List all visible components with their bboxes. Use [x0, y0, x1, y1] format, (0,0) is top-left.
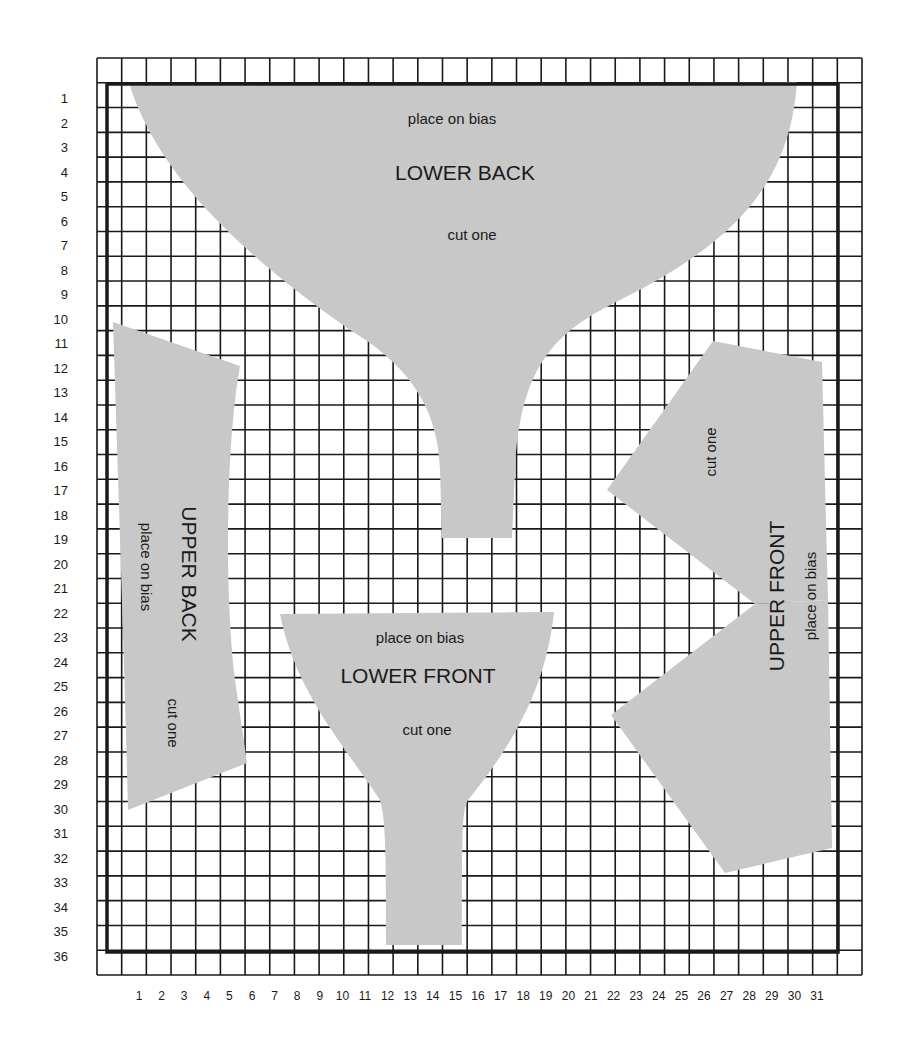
x-axis-label: 5	[226, 989, 233, 1003]
y-axis-label: 25	[54, 679, 68, 694]
x-axis-label: 13	[404, 989, 418, 1003]
x-axis-label: 4	[203, 989, 210, 1003]
x-axis-label: 29	[765, 989, 779, 1003]
y-axis-label: 31	[54, 826, 68, 841]
x-axis-labels: 1234567891011121314151617181920212223242…	[136, 989, 824, 1003]
y-axis-label: 23	[54, 630, 68, 645]
upper-back-title: UPPER BACK	[178, 506, 201, 641]
x-axis-label: 28	[743, 989, 757, 1003]
x-axis-label: 11	[359, 989, 372, 1003]
x-axis-label: 7	[271, 989, 278, 1003]
y-axis-label: 22	[54, 606, 68, 621]
x-axis-label: 17	[494, 989, 508, 1003]
upper-back-note-bias: place on bias	[138, 523, 155, 611]
y-axis-label: 32	[54, 851, 68, 866]
y-axis-label: 8	[61, 263, 68, 278]
x-axis-label: 19	[539, 989, 553, 1003]
y-axis-label: 10	[54, 312, 68, 327]
y-axis-label: 28	[54, 753, 68, 768]
lower-front-piece	[280, 612, 554, 945]
x-axis-label: 25	[675, 989, 689, 1003]
x-axis-label: 8	[294, 989, 301, 1003]
upper-back-note-cut: cut one	[165, 698, 182, 747]
x-axis-label: 10	[336, 989, 350, 1003]
y-axis-label: 33	[54, 875, 68, 890]
y-axis-label: 2	[61, 116, 68, 131]
upper-front-note-cut: cut one	[702, 427, 719, 476]
y-axis-label: 7	[61, 238, 68, 253]
y-axis-label: 19	[54, 532, 68, 547]
y-axis-label: 16	[54, 459, 68, 474]
x-axis-label: 14	[426, 989, 440, 1003]
x-axis-label: 23	[630, 989, 644, 1003]
y-axis-label: 1	[61, 91, 68, 106]
y-axis-label: 4	[61, 165, 68, 180]
y-axis-label: 36	[54, 949, 68, 964]
y-axis-label: 13	[54, 385, 68, 400]
x-axis-label: 20	[562, 989, 576, 1003]
x-axis-label: 2	[158, 989, 165, 1003]
x-axis-label: 12	[381, 989, 395, 1003]
y-axis-label: 18	[54, 508, 68, 523]
y-axis-label: 21	[54, 581, 68, 596]
y-axis-label: 6	[61, 214, 68, 229]
x-axis-label: 3	[181, 989, 188, 1003]
y-axis-label: 29	[54, 777, 68, 792]
lower-front-title: LOWER FRONT	[340, 664, 495, 687]
y-axis-label: 20	[54, 557, 68, 572]
x-axis-label: 30	[788, 989, 802, 1003]
pattern-diagram: place on bias LOWER BACK cut one UPPER B…	[0, 0, 911, 1039]
lower-front-note-top: place on bias	[376, 629, 464, 646]
y-axis-label: 35	[54, 924, 68, 939]
x-axis-label: 1	[136, 989, 143, 1003]
x-axis-label: 15	[449, 989, 463, 1003]
y-axis-labels: 1234567891011121314151617181920212223242…	[54, 91, 68, 964]
upper-front-note-bias: place on bias	[802, 552, 819, 640]
y-axis-label: 14	[54, 410, 68, 425]
y-axis-label: 9	[61, 287, 68, 302]
y-axis-label: 17	[54, 483, 68, 498]
y-axis-label: 26	[54, 704, 68, 719]
lower-back-note-bottom: cut one	[447, 226, 496, 243]
y-axis-label: 27	[54, 728, 68, 743]
y-axis-label: 5	[61, 189, 68, 204]
lower-back-title: LOWER BACK	[395, 161, 535, 184]
y-axis-label: 11	[55, 336, 69, 351]
x-axis-label: 16	[471, 989, 485, 1003]
y-axis-label: 3	[61, 140, 68, 155]
x-axis-label: 26	[697, 989, 711, 1003]
y-axis-label: 30	[54, 802, 68, 817]
x-axis-label: 27	[720, 989, 734, 1003]
lower-back-note-top: place on bias	[408, 110, 496, 127]
upper-front-piece-bottom	[611, 600, 832, 873]
x-axis-label: 21	[584, 989, 598, 1003]
x-axis-label: 31	[810, 989, 824, 1003]
upper-front-title: UPPER FRONT	[765, 521, 788, 672]
x-axis-label: 24	[652, 989, 666, 1003]
lower-front-note-bottom: cut one	[402, 721, 451, 738]
x-axis-label: 6	[249, 989, 256, 1003]
y-axis-label: 15	[54, 434, 68, 449]
x-axis-label: 9	[316, 989, 323, 1003]
y-axis-label: 34	[54, 900, 68, 915]
x-axis-label: 22	[607, 989, 621, 1003]
x-axis-label: 18	[517, 989, 531, 1003]
y-axis-label: 12	[54, 361, 68, 376]
y-axis-label: 24	[54, 655, 68, 670]
